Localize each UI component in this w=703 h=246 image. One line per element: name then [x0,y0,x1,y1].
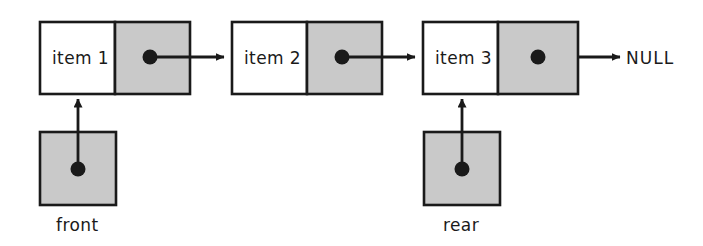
diagram-canvas: item 1 item 2 item 3 NULL front [0,0,703,246]
list-node-3: item 3 [423,22,620,94]
front-pointer-label: front [56,215,98,235]
rear-pointer-label: rear [443,215,479,235]
node-2-label: item 2 [244,48,301,68]
node-3-pointer-dot-icon [531,50,546,65]
list-node-2: item 2 [232,22,415,94]
list-node-1: item 1 [40,22,224,94]
front-pointer-group: front [40,99,116,235]
rear-pointer-group: rear [424,99,500,235]
null-terminator-label: NULL [626,48,674,68]
node-1-label: item 1 [52,48,109,68]
node-3-label: item 3 [435,48,492,68]
linked-list-diagram: item 1 item 2 item 3 NULL front [0,0,703,246]
